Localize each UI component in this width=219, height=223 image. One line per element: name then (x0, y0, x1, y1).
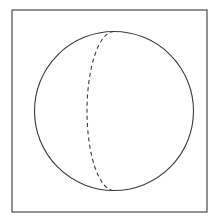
figure-container: Sphere with dashed meridian arc (0, 0, 219, 223)
figure-background (0, 0, 219, 223)
sphere-diagram (0, 0, 219, 223)
